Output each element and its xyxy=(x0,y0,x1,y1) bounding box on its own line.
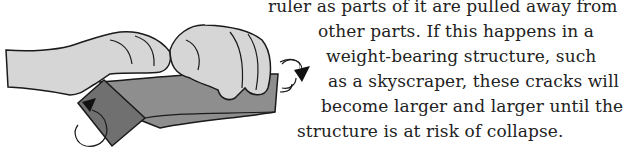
body-text-line-6: structure is at risk of collapse. xyxy=(297,121,564,141)
twisting-ruler-illustration xyxy=(0,0,300,151)
rotation-arrowhead-right xyxy=(280,52,310,92)
body-text-line-2: other parts. If this happens in a xyxy=(318,21,594,41)
body-text-line-5: become larger and larger until the xyxy=(321,96,623,116)
body-text-line-3: weight-bearing structure, such xyxy=(326,46,596,66)
body-text-line-1: ruler as parts of it are pulled away fro… xyxy=(268,0,618,16)
body-text-line-4: as a skyscraper, these cracks will xyxy=(328,71,619,91)
